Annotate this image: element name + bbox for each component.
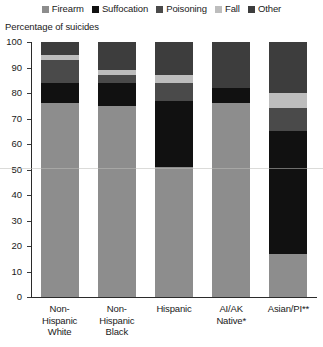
y-tick-label: 50 [11,165,22,175]
bar-1 [98,42,136,297]
bar-segment-firearm [155,167,193,297]
bar-segment-poisoning [98,75,136,83]
y-tick-mark [27,170,31,171]
y-tick-label: 10 [11,267,22,277]
bar-segment-firearm [98,106,136,297]
y-axis: 0102030405060708090100 [0,0,30,347]
bar-2 [155,42,193,297]
x-axis-label-line: Native* [186,315,276,327]
x-axis-label-4: Asian/PI** [243,303,323,315]
y-tick-mark [27,68,31,69]
y-tick-mark [27,272,31,273]
bar-segment-other [269,42,307,93]
bar-segment-suffocation [212,88,250,103]
bar-0 [41,42,79,297]
chart-plot-area: 0102030405060708090100 Non-HispanicWhite… [0,0,323,347]
y-tick-mark [27,119,31,120]
bar-segment-other [155,42,193,75]
y-tick-mark [27,195,31,196]
bar-segment-poisoning [41,60,79,83]
bar-segment-poisoning [269,108,307,131]
bar-segment-suffocation [155,101,193,167]
y-tick-label: 70 [11,114,22,124]
bar-segment-firearm [41,103,79,297]
y-tick-label: 30 [11,216,22,226]
y-tick-mark [27,246,31,247]
y-tick-mark [27,221,31,222]
y-tick-label: 80 [11,88,22,98]
bar-segment-other [41,42,79,55]
bar-segment-suffocation [41,83,79,103]
bar-segment-other [212,42,250,88]
bar-segment-other [98,42,136,70]
bar-segment-suffocation [98,83,136,106]
x-axis-label-line: Black [72,326,162,338]
y-tick-mark [27,42,31,43]
y-tick-label: 60 [11,139,22,149]
y-tick-mark [27,93,31,94]
y-tick-mark [27,144,31,145]
x-axis-line [31,297,317,298]
bar-segment-firearm [269,254,307,297]
x-axis-label-line: Asian/PI** [243,303,323,315]
bar-segment-fall [269,93,307,108]
bar-segment-firearm [212,103,250,297]
y-axis-line [31,42,32,298]
x-axis-label-line: Hispanic [72,315,162,327]
bar-4 [269,42,307,297]
bar-segment-suffocation [269,131,307,253]
y-tick-mark [27,297,31,298]
y-tick-label: 90 [11,63,22,73]
y-tick-label: 100 [6,37,22,47]
bar-segment-poisoning [155,83,193,101]
y-tick-label: 20 [11,241,22,251]
bar-segment-fall [155,75,193,83]
y-tick-label: 0 [17,292,22,302]
bar-3 [212,42,250,297]
y-tick-label: 40 [11,190,22,200]
